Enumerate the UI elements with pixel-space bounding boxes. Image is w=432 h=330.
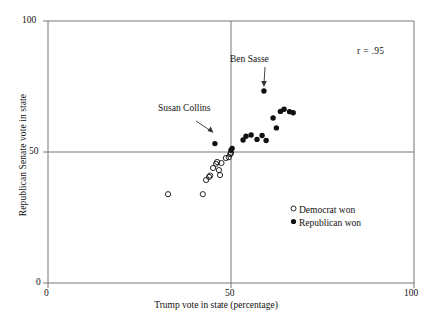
- data-point: [248, 132, 253, 137]
- data-point: [270, 115, 275, 120]
- data-point: [208, 173, 213, 178]
- data-point: [200, 192, 205, 197]
- series-democrat-won-markers: [165, 150, 233, 196]
- legend-democrat-marker: [291, 206, 296, 211]
- correlation-annotation: r = .95: [357, 46, 384, 56]
- data-point: [229, 146, 234, 151]
- x-tick-label-100: 100: [404, 288, 418, 298]
- y-axis-title: Republican Senate vote in state: [18, 70, 28, 240]
- data-point: [274, 125, 279, 130]
- data-point: [212, 141, 217, 146]
- data-point: [261, 88, 266, 93]
- data-point: [243, 134, 248, 139]
- legend-markers-group: [291, 206, 296, 224]
- ben-sasse-arrow-head: [261, 81, 267, 87]
- series-republican-won-markers: [212, 88, 296, 153]
- data-point: [263, 138, 268, 143]
- y-tick-label-50: 50: [29, 146, 39, 156]
- y-tick-label-0: 0: [36, 277, 41, 287]
- y-tick-label-100: 100: [22, 15, 36, 25]
- data-point: [217, 172, 222, 177]
- susan-collins-label: Susan Collins: [158, 103, 211, 113]
- data-point: [216, 167, 221, 172]
- ben-sasse-label: Ben Sasse: [230, 54, 269, 64]
- data-point: [291, 110, 296, 115]
- data-point: [254, 137, 259, 142]
- x-tick-label-50: 50: [225, 288, 235, 298]
- data-point: [204, 177, 209, 182]
- legend-item-democrat-label: Democrat won: [299, 205, 355, 215]
- data-point: [165, 192, 170, 197]
- legend-republican-marker: [291, 219, 296, 224]
- scatter-plot-figure: 100 50 0 0 50 100 Republican Senate vote…: [0, 0, 432, 330]
- data-point: [259, 133, 264, 138]
- x-tick-label-0: 0: [44, 288, 49, 298]
- data-point: [281, 107, 286, 112]
- legend-item-republican-label: Republican won: [299, 218, 361, 228]
- x-axis-title: Trump vote in state (percentage): [0, 300, 432, 310]
